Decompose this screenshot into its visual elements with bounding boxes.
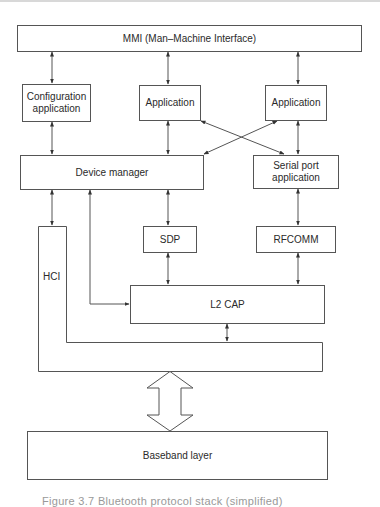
rfcomm-label: RFCOMM bbox=[274, 234, 319, 246]
application-2-label: Application bbox=[272, 97, 321, 109]
config-app-label-line2: application bbox=[33, 103, 81, 115]
hci-label: HCI bbox=[43, 271, 60, 282]
rfcomm-box: RFCOMM bbox=[256, 226, 336, 253]
figure-caption: Figure 3.7 Bluetooth protocol stack (sim… bbox=[42, 495, 283, 507]
application-box-2: Application bbox=[265, 85, 327, 121]
sdp-label: SDP bbox=[160, 234, 181, 246]
sdp-box: SDP bbox=[143, 226, 197, 253]
config-app-label-line1: Configuration bbox=[27, 91, 86, 103]
serial-port-label-line1: Serial port bbox=[273, 160, 319, 172]
device-manager-box: Device manager bbox=[20, 155, 204, 190]
application-1-label: Application bbox=[146, 97, 195, 109]
baseband-layer-box: Baseband layer bbox=[27, 431, 328, 480]
arrow-app2-devmgr bbox=[204, 121, 277, 154]
l2cap-box: L2 CAP bbox=[130, 285, 325, 324]
arrow-devmgr-l2cap bbox=[90, 190, 129, 304]
mmi-box: MMI (Man–Machine Interface) bbox=[17, 25, 362, 52]
arrow-app1-serial bbox=[201, 121, 284, 154]
baseband-label: Baseband layer bbox=[143, 450, 213, 462]
application-box-1: Application bbox=[139, 85, 201, 121]
configuration-application-box: Configuration application bbox=[22, 84, 91, 122]
device-manager-label: Device manager bbox=[76, 167, 149, 179]
mmi-label: MMI (Man–Machine Interface) bbox=[123, 33, 256, 45]
l2cap-label: L2 CAP bbox=[210, 299, 244, 311]
serial-port-label-line2: application bbox=[272, 172, 320, 184]
serial-port-application-box: Serial port application bbox=[253, 155, 339, 189]
hollow-double-arrow-hci-baseband bbox=[147, 372, 193, 432]
